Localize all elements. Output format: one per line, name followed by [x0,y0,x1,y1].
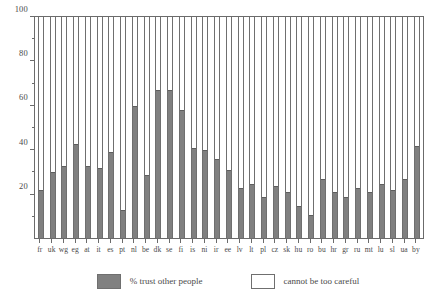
bar-trust-other-people [344,197,348,239]
x-axis-tick [169,239,170,243]
bar-trust-other-people [62,166,66,239]
bar-slot [59,17,71,239]
x-axis-tick [380,239,381,243]
x-axis-tick-label: ni [199,244,211,256]
bar-cannot-be-too-careful [249,17,255,239]
x-axis-tick [110,239,111,243]
x-axis-tick [51,239,52,243]
bar-cannot-be-too-careful [390,17,396,239]
legend-label: cannot be too careful [284,277,360,286]
x-axis-tick-label: by [410,244,422,256]
y-axis-tick-label: 20 [19,182,28,191]
x-axis-tick-label: gr [340,244,352,256]
legend-swatch [251,274,275,289]
y-axis-tick-label: 100 [15,4,28,13]
x-axis-tick-label: eg [69,244,81,256]
bar-cannot-be-too-careful [202,17,208,239]
bar-slot [258,17,270,239]
bar-cannot-be-too-careful [50,17,56,239]
bar-slot [411,17,423,239]
x-axis-tick [404,239,405,243]
bar-cannot-be-too-careful [414,17,420,239]
bar-slot [305,17,317,239]
bar-cannot-be-too-careful [73,17,79,239]
bar-cannot-be-too-careful [97,17,103,239]
x-axis-tick-label: at [81,244,93,256]
x-axis-tick [286,239,287,243]
bar-trust-other-people [109,152,113,239]
bar-trust-other-people [380,184,384,240]
bar-trust-other-people [309,215,313,239]
bar-slot [270,17,282,239]
bar-cannot-be-too-careful [238,17,244,239]
bar-trust-other-people [403,179,407,239]
bar-trust-other-people [51,172,55,239]
bar-cannot-be-too-careful [38,17,44,239]
x-axis-tick [180,239,181,243]
y-axis-tick-label: 40 [19,137,28,146]
x-axis-labels: frukwgegatitesptnlbedksefiisniireelvltpl… [34,244,422,256]
x-axis-tick-label: fi [175,244,187,256]
x-axis-tick [39,239,40,243]
bar-trust-other-people [262,197,266,239]
x-axis-tick [157,239,158,243]
chart-legend: % trust other peoplecannot be too carefu… [34,268,422,294]
bar-cannot-be-too-careful [132,17,138,239]
bar-cannot-be-too-careful [296,17,302,239]
x-axis-tick-label: ua [398,244,410,256]
x-axis-tick [321,239,322,243]
bar-slot [388,17,400,239]
bar-trust-other-people [145,175,149,239]
bar-trust-other-people [333,192,337,239]
bar-cannot-be-too-careful [261,17,267,239]
x-axis-tick [133,239,134,243]
bar-slot [211,17,223,239]
bar-slot [35,17,47,239]
legend-label: % trust other people [130,277,203,286]
bar-trust-other-people [239,188,243,239]
bar-trust-other-people [274,186,278,239]
legend-entry: cannot be too careful [251,274,360,289]
trust-bar-chart: 20406080100 frukwgegatitesptnlbedksefiis… [0,0,433,304]
bar-cannot-be-too-careful [191,17,197,239]
x-axis-tick-label: it [93,244,105,256]
bar-cannot-be-too-careful [285,17,291,239]
x-axis-tick [357,239,358,243]
x-axis-tick [333,239,334,243]
x-axis-tick [345,239,346,243]
bar-cannot-be-too-careful [61,17,67,239]
bar-cannot-be-too-careful [167,17,173,239]
bar-trust-other-people [250,184,254,240]
x-axis-tick-label: uk [46,244,58,256]
x-axis-tick [251,239,252,243]
bar-trust-other-people [39,190,43,239]
bar-slot [341,17,353,239]
bar-cannot-be-too-careful [320,17,326,239]
bar-trust-other-people [156,90,160,239]
bar-trust-other-people [203,150,207,239]
bar-slot [294,17,306,239]
x-axis-tick-label: is [187,244,199,256]
x-axis-tick [63,239,64,243]
bar-cannot-be-too-careful [214,17,220,239]
bar-cannot-be-too-careful [332,17,338,239]
bar-trust-other-people [356,188,360,239]
bar-slot [82,17,94,239]
bar-trust-other-people [297,206,301,239]
bar-slot [200,17,212,239]
x-axis-tick-label: pt [116,244,128,256]
bar-cannot-be-too-careful [226,17,232,239]
plot-area: 20406080100 [34,16,424,239]
x-axis-tick-label: sk [281,244,293,256]
bar-slot [317,17,329,239]
bar-trust-other-people [415,146,419,239]
x-axis-tick [392,239,393,243]
x-axis-tick [415,239,416,243]
x-axis-tick-label: dk [152,244,164,256]
bar-trust-other-people [74,144,78,239]
x-axis-tick-label: lu [375,244,387,256]
bar-cannot-be-too-careful [85,17,91,239]
bar-cannot-be-too-careful [179,17,185,239]
x-axis-tick-label: sl [387,244,399,256]
x-axis-tick-label: wg [58,244,70,256]
